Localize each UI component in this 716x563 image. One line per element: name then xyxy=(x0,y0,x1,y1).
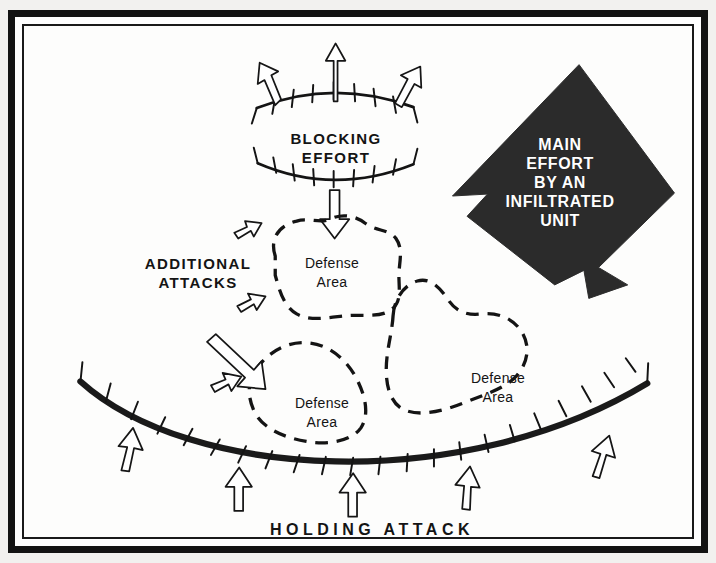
defense-area-label-lower-left: Defense Area xyxy=(272,394,372,432)
additional-attack-arrow-3 xyxy=(211,373,241,392)
defense-area-label-right: Defense Area xyxy=(448,369,548,407)
figure-root: .ink { stroke:#141414; fill:none; stroke… xyxy=(0,0,716,563)
holding-attack-arrow-2 xyxy=(226,467,252,510)
additional-attack-arrow-1 xyxy=(234,221,261,238)
figure-inner-frame: .ink { stroke:#141414; fill:none; stroke… xyxy=(22,24,694,539)
holding-attack-label: HOLDING ATTACK xyxy=(202,520,542,540)
holding-attack-arrow-5 xyxy=(592,436,615,479)
defense-area-label-top: Defense Area xyxy=(282,254,382,292)
holding-attack-arrow-4 xyxy=(455,466,479,509)
additional-attack-arrow-2 xyxy=(237,294,265,312)
figure-outer-frame: .ink { stroke:#141414; fill:none; stroke… xyxy=(8,10,708,553)
blocking-effort-up-arrow-right xyxy=(395,67,421,108)
blocking-effort-label: BLOCKING EFFORT xyxy=(256,129,416,167)
holding-attack-arrow-1 xyxy=(118,428,142,471)
blocking-effort-up-arrow-left xyxy=(258,63,281,106)
diagram-canvas: .ink { stroke:#141414; fill:none; stroke… xyxy=(24,26,692,537)
holding-attack-arrow-3 xyxy=(339,473,365,516)
main-effort-arrow-label: MAIN EFFORT BY AN INFILTRATED UNIT xyxy=(490,136,630,230)
additional-attacks-label: ADDITIONAL ATTACKS xyxy=(108,254,288,292)
